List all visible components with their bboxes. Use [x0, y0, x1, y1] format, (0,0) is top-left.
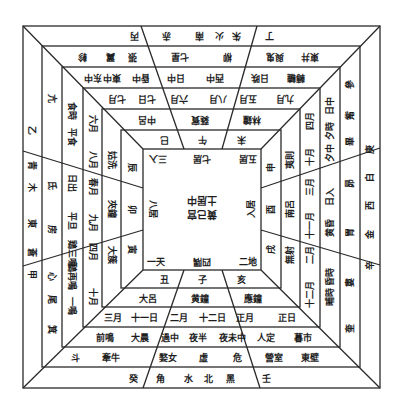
center-text: 土居中 黄己宫: [187, 195, 217, 221]
ring6-right-1: 白: [364, 173, 375, 182]
corner-top-mid: 七居: [193, 154, 211, 165]
ring3-bottom-4: 正月: [236, 313, 254, 323]
ring3-bottom-5: 正日: [278, 313, 296, 323]
ring3-right-2: 三月: [305, 178, 315, 196]
ring4-bottom-0: 前鳴: [96, 332, 114, 343]
ring6-left-0: 乙: [27, 126, 37, 135]
ring1-left-2: 寅: [127, 245, 138, 254]
ring2-right-0: 夷則: [284, 151, 295, 169]
corner-bottom-right: 二地: [239, 256, 257, 267]
ring4-bottom-6: 暮市: [293, 332, 312, 343]
ring3-left-2: 春月: [88, 177, 99, 196]
ring4-right-4: 黄昏: [324, 219, 335, 237]
ring5-bottom-1: 牽牛: [102, 352, 120, 363]
ring4-top-4: 西中: [206, 73, 224, 84]
center-line1: 土居中: [187, 195, 217, 207]
ring5-left-5: 箕: [47, 324, 58, 334]
ring2-left-2: 大簇: [107, 246, 118, 265]
ring3-right-4: 二月: [305, 246, 315, 264]
ring4-right-0: 日中: [324, 97, 335, 115]
ring5-left-0: 亢: [47, 94, 58, 103]
ring6-left-1: 青: [27, 161, 38, 170]
ring6-left-4: 蒼: [27, 248, 38, 257]
ring6-top-4: 朱: [231, 31, 242, 42]
ring6-bottom-5: 壬: [262, 373, 271, 384]
ring2-bottom-0: 大呂: [139, 293, 157, 304]
ring3-left-5: 十月: [88, 288, 99, 306]
ring3-bottom-0: 三月: [104, 313, 122, 323]
ring4-right-6: 晡時: [324, 288, 335, 306]
ring5-top-4: 柳: [223, 52, 232, 63]
ring1-right-1: 酉: [266, 205, 276, 214]
ring4-right-3: 日入: [325, 188, 335, 206]
ring6-right-2: 西: [365, 201, 375, 210]
ring5-right-2: 畢: [345, 137, 355, 146]
ring6-right-3: 金: [364, 229, 375, 240]
ring3-bottom-1: 十一日: [131, 312, 158, 323]
ring4-top-1: 東中: [103, 73, 121, 84]
ring5-top-3: 七星: [171, 52, 189, 63]
ring4-left-3: 平旦: [67, 212, 77, 230]
ring2-right-2: 無射: [284, 246, 295, 264]
ring6-left-3: 東: [27, 219, 38, 228]
ring6-bottom-2: 水: [184, 373, 194, 384]
ring2-right-1: 南呂: [284, 200, 295, 218]
ring5-right-5: 婁: [344, 278, 355, 287]
ring1-top-0: 巳: [160, 135, 169, 145]
ring4-right-1: 夕時: [324, 122, 335, 140]
ring6-bottom-4: 黑: [226, 374, 235, 384]
ring5-bottom-0: 斗: [71, 353, 80, 363]
ring4-left-0: 食時: [67, 101, 78, 120]
ring5-right-0: 參: [344, 79, 355, 89]
ring5-bottom-3: 虛: [199, 352, 208, 363]
ring5-top-0: 軫: [77, 52, 87, 63]
ring3-right-1: 十月: [304, 148, 315, 166]
ring4-top-6: 轉轆: [287, 73, 305, 84]
corner-left-mid: 八居: [148, 199, 158, 218]
ring5-right-3: 昴: [344, 179, 355, 188]
ring3-top-5: 九月: [276, 94, 295, 105]
ring4-bottom-1: 大晨: [131, 332, 150, 343]
ring6-bottom-1: 角: [156, 373, 165, 384]
ring1-right-2: 戌: [265, 245, 276, 254]
ring3-top-1: 七日: [138, 94, 156, 105]
ring6-bottom-0: 癸: [128, 373, 139, 384]
corner-top-left: 三入: [149, 154, 167, 164]
ring3-left-4: 四月: [88, 243, 98, 261]
corner-top-right: 五居: [239, 154, 257, 164]
ring5-top-1: 翼: [106, 52, 116, 62]
ring3-bottom-2: 二月: [170, 313, 188, 323]
ring4-left-6: 一鳴: [67, 297, 78, 315]
ring1-bottom-2: 亥: [237, 274, 246, 285]
ring4-top-3: 日中: [167, 73, 185, 84]
corner-right-mid: 入居: [246, 200, 256, 219]
ring3-right-5: 十二月: [304, 281, 315, 308]
ring6-bottom-3: 北: [204, 373, 213, 384]
ring5-bottom-6: 東壁: [301, 352, 319, 363]
ring2-top-0: 中呂: [138, 115, 156, 126]
ring5-bottom-2: 婺女: [159, 352, 177, 363]
ring5-right-6: 奎: [344, 323, 355, 334]
corner-bottom-mid: 四隅: [193, 257, 211, 267]
ring4-left-5: 鶏再鳴: [67, 263, 78, 290]
ring1-top-1: 午: [198, 135, 207, 146]
ring5-top-2: 張: [127, 52, 137, 63]
ring2-bottom-1: 黄鐘: [191, 293, 209, 304]
ring3-left-0: 六月: [88, 115, 99, 133]
ring5-right-1: 觜: [344, 111, 355, 120]
ring4-bottom-2: 過中: [160, 332, 179, 343]
ring5-top-6: 東井: [301, 52, 319, 63]
ring4-right-2: 夕中: [324, 144, 335, 162]
ring1-left-0: 辰: [127, 163, 137, 173]
ring3-left-3: 九月: [88, 213, 99, 232]
ring4-top-0: 东中: [84, 73, 102, 84]
ring5-left-4: 尾: [47, 294, 57, 304]
ring5-top-5: 與鬼: [266, 52, 284, 63]
ring1-top-2: 未: [236, 135, 247, 146]
ring6-top-3: 火: [214, 31, 224, 41]
ring6-left-5: 甲: [27, 270, 37, 279]
ring3-bottom-3: 十二日: [199, 312, 226, 323]
ring3-right-3: 十一月: [304, 212, 315, 239]
ring1-right-0: 申: [265, 163, 276, 172]
ring6-right-0: 庚: [364, 145, 375, 154]
